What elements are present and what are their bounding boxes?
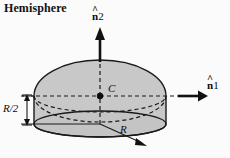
radius-label: R [120, 124, 127, 135]
axis-n1-label: ^n1 [207, 80, 219, 91]
hemisphere-diagram [0, 0, 230, 158]
n1-hat-accent: ^ [207, 74, 213, 84]
n2-hat-accent: ^ [92, 5, 98, 15]
axis-n2-label: ^n2 [92, 11, 104, 22]
height-dimension-label: R/2 [3, 103, 18, 114]
centroid-label: C [108, 83, 115, 94]
axis-n1-arrowhead [198, 91, 208, 102]
n2-subscript: 2 [98, 10, 104, 22]
figure-page: Hemisphere [0, 0, 230, 158]
radius-arrowhead [135, 138, 147, 146]
n1-subscript: 1 [213, 79, 219, 91]
axis-n2-arrowhead [95, 27, 105, 40]
centroid-dot [97, 93, 103, 99]
